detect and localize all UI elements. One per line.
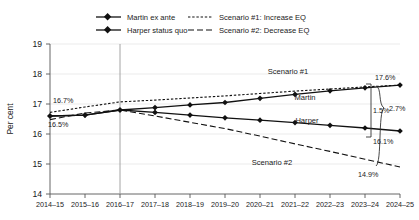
legend-label-scenario-2: Scenario #2: Decrease EQ bbox=[219, 26, 309, 35]
x-tick-label: 2017–18 bbox=[141, 200, 169, 209]
x-tick-label: 2018–19 bbox=[176, 200, 204, 209]
y-axis-title: Per cent bbox=[5, 103, 15, 135]
legend-swatch-martin bbox=[96, 13, 121, 20]
data-point-marker bbox=[222, 115, 228, 121]
data-point-marker bbox=[152, 105, 158, 111]
inline-label-harper: Harper bbox=[295, 116, 319, 125]
chart-container: 19 18 17 16 15 14 Per cent 2014–152015–1… bbox=[0, 0, 419, 220]
legend-swatch-harper bbox=[96, 26, 121, 33]
legend-label-scenario-1: Scenario #1: Increase EQ bbox=[219, 13, 306, 22]
y-tick-label-14: 14 bbox=[32, 189, 42, 199]
data-point-marker bbox=[117, 107, 123, 113]
y-tick-label-17: 17 bbox=[32, 99, 42, 109]
legend-label-harper: Harper status quo bbox=[127, 26, 187, 35]
y-axis-ticks bbox=[46, 44, 50, 194]
x-tick-label: 2020–21 bbox=[246, 200, 274, 209]
annotation-right-top: 17.6% bbox=[375, 73, 396, 82]
annotation-brackets bbox=[366, 84, 384, 166]
annotation-left-bottom: 16.5% bbox=[48, 120, 69, 129]
data-point-marker bbox=[257, 117, 263, 123]
line-chart: 19 18 17 16 15 14 Per cent 2014–152015–1… bbox=[0, 0, 419, 220]
y-tick-label-19: 19 bbox=[32, 39, 42, 49]
series-markers-harper bbox=[47, 107, 403, 134]
annotation-gap-inner: 1.5% bbox=[373, 106, 390, 115]
x-tick-label: 2022–23 bbox=[316, 200, 344, 209]
annotation-left-top: 16.7% bbox=[53, 96, 74, 105]
x-tick-label: 2019–20 bbox=[211, 200, 239, 209]
data-point-marker bbox=[362, 85, 368, 91]
y-tick-label-16: 16 bbox=[32, 129, 42, 139]
data-point-marker bbox=[222, 100, 228, 106]
data-point-marker bbox=[397, 128, 403, 134]
data-point-marker bbox=[397, 82, 403, 88]
x-tick-label: 2023–24 bbox=[351, 200, 379, 209]
inline-label-scenario-2: Scenario #2 bbox=[252, 158, 293, 167]
data-point-marker bbox=[327, 122, 333, 128]
inline-label-martin: Martin bbox=[294, 93, 315, 102]
data-point-marker bbox=[187, 102, 193, 108]
annotation-right-bottom: 14.9% bbox=[358, 170, 379, 179]
data-point-marker bbox=[187, 112, 193, 118]
data-point-marker bbox=[362, 125, 368, 131]
x-tick-label: 2024–25 bbox=[386, 200, 414, 209]
legend: Martin ex ante Harper status quo Scenari… bbox=[96, 13, 309, 35]
x-tick-label: 2015–16 bbox=[71, 200, 99, 209]
data-point-marker bbox=[257, 95, 263, 101]
inline-label-scenario-1: Scenario #1 bbox=[268, 67, 309, 76]
x-axis-tick-labels: 2014–152015–162016–172017–182018–192019–… bbox=[36, 200, 414, 209]
x-tick-label: 2014–15 bbox=[36, 200, 64, 209]
data-point-marker bbox=[47, 113, 53, 119]
x-tick-label: 2016–17 bbox=[106, 200, 134, 209]
y-tick-label-15: 15 bbox=[32, 159, 42, 169]
x-tick-label: 2021–22 bbox=[281, 200, 309, 209]
annotation-right-mid: 16.1% bbox=[373, 137, 394, 146]
legend-label-martin: Martin ex ante bbox=[127, 13, 175, 22]
x-axis-ticks bbox=[50, 194, 400, 198]
annotation-gap-outer: 2.7% bbox=[389, 104, 406, 113]
y-tick-label-18: 18 bbox=[32, 69, 42, 79]
